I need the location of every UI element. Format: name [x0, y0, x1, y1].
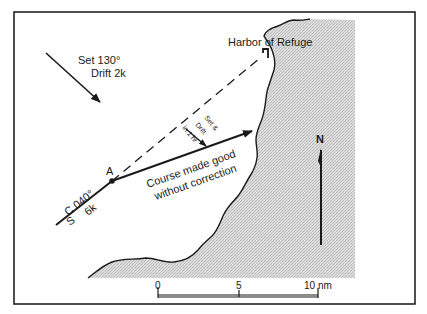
- set-drift-label-line2: Drift: [194, 121, 208, 135]
- harbor-marker-icon: [263, 49, 268, 58]
- harbor-label: Harbor of Refuge: [228, 36, 312, 48]
- north-label: N: [316, 133, 324, 145]
- land-mass: [88, 19, 355, 278]
- scale-tick-5: 5: [236, 280, 242, 291]
- current-set-label: Set 130°: [78, 54, 120, 66]
- point-a-label: A: [106, 165, 114, 177]
- scale-tick-0: 0: [155, 280, 161, 291]
- current-drift-label: Drift 2k: [91, 67, 126, 79]
- scale-tick-10: 10 nm: [304, 280, 332, 291]
- speed-prefix-label: S: [64, 214, 77, 228]
- intended-course-line: [112, 58, 260, 181]
- navigation-diagram: Harbor of Refuge Set 130° Drift 2k A C 0…: [0, 0, 427, 314]
